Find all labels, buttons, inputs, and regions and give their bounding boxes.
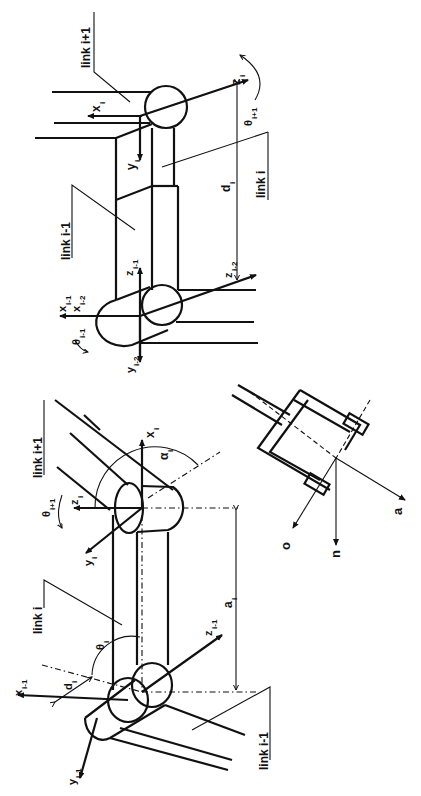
label-z-im1-b: zi-1 — [202, 619, 219, 636]
svg-text:x: x — [89, 105, 103, 112]
joint-circle-im1 — [142, 285, 182, 325]
svg-text:i: i — [70, 681, 79, 683]
label-n: n — [328, 550, 343, 558]
label-a: a — [390, 507, 405, 515]
label-z-im1: zi-1 — [123, 259, 140, 276]
label-y-im2: yi-2 — [124, 356, 141, 373]
label-o: o — [278, 542, 293, 550]
svg-text:y: y — [124, 366, 136, 373]
top-diagram: link i+1 link i link i-1 xi yi zi θi+1 d… — [35, 12, 268, 373]
svg-text:i: i — [90, 557, 99, 559]
svg-text:θ: θ — [94, 644, 106, 650]
label-y-i: yi — [124, 160, 142, 170]
svg-text:i-1: i-1 — [20, 679, 29, 689]
svg-text:i: i — [166, 450, 175, 452]
svg-text:i: i — [133, 160, 142, 162]
label-d-i: di — [219, 182, 237, 192]
label-alpha-i: αi — [157, 450, 175, 460]
label-link-prev: link i-1 — [59, 222, 73, 260]
svg-text:i: i — [228, 182, 237, 184]
label-link-next: link i+1 — [79, 27, 93, 68]
label-y-im1-b: yi-1 — [66, 768, 83, 785]
label-link-next-b: link i+1 — [31, 437, 45, 478]
label-link-curr-b: link i — [31, 607, 45, 634]
svg-text:i-1: i-1 — [78, 328, 87, 338]
svg-text:i-1: i-1 — [210, 619, 219, 629]
svg-text:z: z — [202, 630, 214, 636]
svg-text:d: d — [62, 683, 74, 690]
label-y-i-b: yi — [82, 557, 99, 566]
svg-text:i-1: i-1 — [64, 295, 73, 305]
svg-text:y: y — [66, 778, 78, 785]
label-link-curr: link i — [254, 171, 268, 198]
label-x-i-b: xi — [143, 428, 161, 438]
svg-text:i: i — [152, 428, 161, 430]
label-theta-next: θi+1 — [242, 107, 259, 126]
svg-text:x: x — [12, 689, 24, 696]
svg-text:i-1: i-1 — [74, 768, 83, 778]
svg-text:i: i — [102, 641, 111, 643]
svg-text:y: y — [82, 559, 94, 566]
svg-text:α: α — [157, 452, 171, 460]
label-d-i-b: di — [62, 681, 79, 690]
label-x-im1-b: xi-1 — [12, 679, 29, 696]
svg-text:i-2: i-2 — [132, 356, 141, 366]
svg-text:d: d — [219, 185, 233, 192]
svg-text:i-1: i-1 — [131, 259, 140, 269]
robot-link-dh-diagram: link i+1 link i link i-1 xi yi zi θi+1 d… — [0, 0, 421, 796]
label-theta-prev: θi-1 — [70, 328, 87, 345]
label-z-i: zi — [229, 75, 247, 85]
bottom-diagram: link i+1 link i link i-1 xi αi θi+1 zi y… — [12, 400, 271, 785]
svg-text:z: z — [229, 79, 243, 85]
svg-text:i: i — [230, 598, 239, 600]
svg-text:x: x — [143, 431, 157, 438]
svg-text:x: x — [70, 305, 82, 312]
svg-text:y: y — [124, 163, 138, 170]
label-z-i-b: zi — [68, 496, 85, 505]
svg-text:i+1: i+1 — [250, 107, 259, 119]
label-link-prev-b: link i-1 — [257, 732, 271, 770]
svg-text:θ: θ — [242, 120, 254, 126]
svg-text:a: a — [221, 601, 235, 608]
gripper: o n a — [232, 385, 405, 558]
svg-text:z: z — [222, 272, 234, 278]
svg-text:z: z — [68, 499, 80, 505]
svg-text:i-2: i-2 — [230, 261, 239, 271]
svg-text:i: i — [76, 496, 85, 498]
svg-text:i+1: i+1 — [48, 498, 57, 510]
svg-text:i: i — [98, 102, 107, 104]
label-x-i: xi — [89, 102, 107, 112]
label-theta-i: θi — [94, 641, 111, 650]
svg-text:i: i — [238, 75, 247, 77]
svg-text:θ: θ — [70, 339, 82, 345]
svg-text:z: z — [123, 270, 135, 276]
label-theta-next-b: θi+1 — [40, 498, 57, 517]
svg-text:θ: θ — [40, 511, 52, 517]
svg-text:i-2: i-2 — [78, 295, 87, 305]
svg-text:x: x — [56, 305, 68, 312]
